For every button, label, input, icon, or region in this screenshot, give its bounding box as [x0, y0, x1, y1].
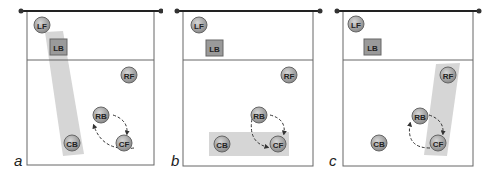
svg-text:CB: CB — [373, 140, 385, 149]
panel-a: LF LB RF RB CB CF a — [0, 0, 163, 180]
svg-text:RF: RF — [284, 72, 295, 81]
svg-text:CF: CF — [433, 140, 444, 149]
panel-b: LF LB RF RB CB CF b — [163, 0, 326, 180]
player-rf: RF — [281, 67, 297, 83]
svg-text:RB: RB — [414, 113, 426, 122]
player-lb: LB — [206, 40, 223, 56]
panel-label: a — [14, 152, 22, 169]
player-cf: CF — [116, 135, 132, 151]
player-cb: CB — [371, 135, 387, 151]
player-lb: LB — [364, 39, 381, 55]
player-cb: CB — [214, 136, 230, 152]
player-lb: LB — [50, 39, 67, 55]
player-rf: RF — [121, 67, 137, 83]
player-cf: CF — [430, 135, 446, 151]
svg-text:LB: LB — [53, 44, 64, 53]
svg-text:LB: LB — [209, 45, 220, 54]
svg-text:RB: RB — [95, 112, 107, 121]
panel-label: b — [171, 152, 179, 169]
player-cb: CB — [64, 135, 80, 151]
svg-text:LF: LF — [37, 22, 47, 31]
player-lf: LF — [348, 16, 364, 32]
svg-text:CF: CF — [273, 141, 284, 150]
court-diagram-c: LF LB RF RB CB CF — [326, 0, 489, 180]
svg-text:RF: RF — [124, 72, 135, 81]
player-lf: LF — [191, 17, 207, 33]
player-rf: RF — [440, 67, 456, 83]
player-rb: RB — [251, 107, 267, 123]
panel-label: c — [329, 152, 337, 169]
svg-text:CB: CB — [216, 141, 228, 150]
svg-text:LF: LF — [351, 21, 361, 30]
player-rb: RB — [93, 107, 109, 123]
svg-text:RB: RB — [253, 112, 265, 121]
court-diagram-a: LF LB RF RB CB CF — [0, 0, 163, 180]
svg-text:LF: LF — [194, 22, 204, 31]
svg-text:CF: CF — [119, 140, 130, 149]
svg-text:CB: CB — [66, 140, 78, 149]
player-cf: CF — [270, 136, 286, 152]
svg-text:RF: RF — [443, 72, 454, 81]
player-lf: LF — [34, 17, 50, 33]
svg-text:LB: LB — [367, 44, 378, 53]
court-diagram-b: LF LB RF RB CB CF — [163, 0, 326, 180]
panel-c: LF LB RF RB CB CF c — [326, 0, 489, 180]
player-rb: RB — [412, 108, 428, 124]
